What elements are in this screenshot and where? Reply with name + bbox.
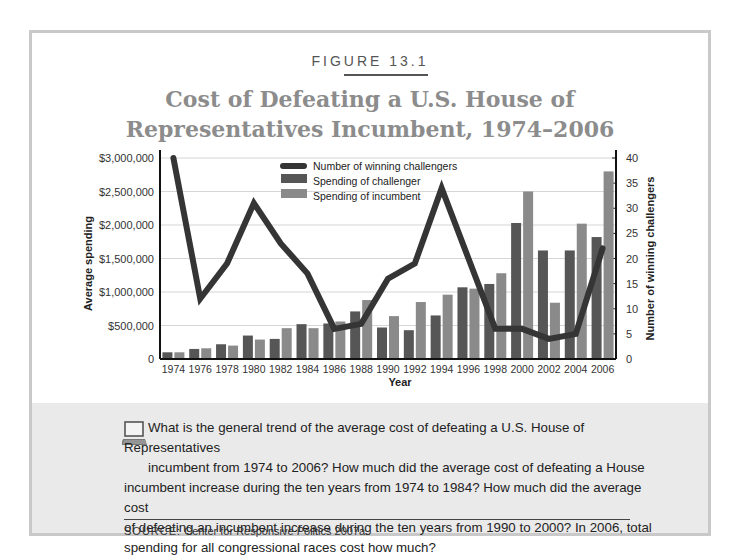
x-tick-label: 2006 — [591, 363, 615, 375]
bar-incumbent — [443, 295, 453, 359]
question-divider — [124, 519, 630, 520]
y-tick-label: $1,000,000 — [99, 286, 154, 298]
bar-challenger — [350, 311, 360, 359]
bar-incumbent — [496, 273, 506, 359]
y2-tick-label: 35 — [626, 177, 638, 189]
question-text: What is the general trend of the average… — [124, 418, 664, 558]
y2-tick-label: 30 — [626, 202, 638, 214]
y-tick-label: $2,500,000 — [99, 186, 154, 198]
bar-challenger — [431, 315, 441, 359]
x-tick-label: 2004 — [564, 363, 588, 375]
x-tick-label: 1978 — [215, 363, 239, 375]
x-tick-label: 2000 — [510, 363, 534, 375]
bar-challenger — [216, 344, 226, 359]
bar-incumbent — [604, 171, 614, 359]
x-tick-label: 1996 — [457, 363, 481, 375]
bar-incumbent — [201, 348, 211, 359]
x-tick-label: 1998 — [484, 363, 508, 375]
y2-tick-label: 0 — [626, 353, 632, 365]
source-note: SOURCE: Center for Responsive Politics 2… — [124, 525, 368, 537]
bar-challenger — [538, 250, 548, 359]
question-line: incumbent from 1974 to 2006? How much di… — [148, 460, 645, 475]
x-tick-label: 1976 — [189, 363, 213, 375]
x-tick-label: 1988 — [349, 363, 373, 375]
y-tick-label: $500,000 — [108, 320, 154, 332]
x-tick-label: 1980 — [242, 363, 266, 375]
bar-incumbent — [550, 303, 560, 359]
y-tick-label: $1,500,000 — [99, 253, 154, 265]
x-tick-label: 1990 — [376, 363, 400, 375]
bar-challenger — [243, 336, 253, 359]
bar-incumbent — [577, 224, 587, 359]
legend-challenger-swatch — [281, 174, 307, 183]
bar-challenger — [270, 339, 280, 359]
combo-chart: 0$500,000$1,000,000$1,500,000$2,000,000$… — [32, 33, 708, 403]
x-axis-label: Year — [388, 376, 412, 388]
y2-tick-label: 15 — [626, 278, 638, 290]
y-tick-label: $3,000,000 — [99, 152, 154, 164]
x-tick-label: 1974 — [162, 363, 186, 375]
bar-challenger — [457, 287, 467, 359]
legend-label: Spending of incumbent — [313, 190, 420, 202]
bar-challenger — [189, 349, 199, 359]
legend-label: Spending of challenger — [313, 175, 421, 187]
x-tick-label: 1994 — [430, 363, 454, 375]
bar-incumbent — [255, 340, 265, 359]
x-tick-label: 1984 — [296, 363, 320, 375]
bar-challenger — [511, 223, 521, 359]
x-tick-label: 1992 — [403, 363, 427, 375]
y-axis-label: Average spending — [82, 216, 94, 311]
bar-challenger — [565, 250, 575, 359]
bar-challenger — [162, 352, 172, 359]
bar-incumbent — [469, 289, 479, 359]
figure-frame: FIGURE 13.1 Cost of Defeating a U.S. Hou… — [29, 30, 711, 536]
y-tick-label: $2,000,000 — [99, 219, 154, 231]
bar-challenger — [377, 328, 387, 359]
bar-incumbent — [309, 328, 319, 359]
source-label: SOURCE: — [124, 525, 181, 537]
legend-incumbent-swatch — [281, 189, 307, 198]
x-tick-label: 1986 — [323, 363, 347, 375]
question-line: incumbent increase during the ten years … — [124, 478, 664, 518]
bar-incumbent — [389, 316, 399, 359]
bar-incumbent — [228, 346, 238, 359]
bar-incumbent — [282, 328, 292, 359]
y2-tick-label: 10 — [626, 303, 638, 315]
question-line: spending for all congressional races cos… — [124, 538, 664, 558]
y2-tick-label: 40 — [626, 152, 638, 164]
y-tick-label: 0 — [148, 353, 154, 365]
y2-tick-label: 25 — [626, 227, 638, 239]
question-panel: What is the general trend of the average… — [32, 403, 708, 533]
bar-challenger — [404, 330, 414, 359]
y2-tick-label: 5 — [626, 328, 632, 340]
y2-axis-label: Number of winning challengers — [644, 177, 656, 341]
bar-challenger — [297, 324, 307, 359]
legend-label: Number of winning challengers — [313, 160, 457, 172]
y2-tick-label: 20 — [626, 253, 638, 265]
x-tick-label: 2002 — [537, 363, 561, 375]
source-text: Center for Responsive Politics 2007a. — [184, 525, 368, 537]
bar-incumbent — [416, 302, 426, 359]
bar-incumbent — [174, 352, 184, 359]
question-line: What is the general trend of the average… — [124, 420, 584, 455]
x-tick-label: 1982 — [269, 363, 293, 375]
